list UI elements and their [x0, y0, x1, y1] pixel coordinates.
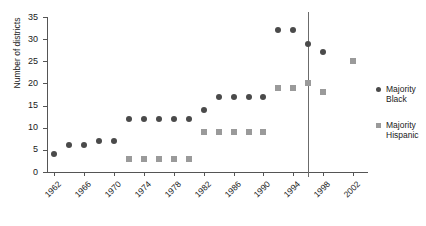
- data-point: [126, 116, 132, 122]
- x-tick-label: 1998: [308, 179, 332, 203]
- data-point: [320, 89, 326, 95]
- data-point: [246, 94, 252, 100]
- x-tick-mark: [54, 172, 55, 176]
- y-tick-label: 25: [16, 57, 38, 66]
- legend-item[interactable]: Majority Hispanic: [376, 120, 419, 140]
- y-tick-label: 0: [16, 168, 38, 177]
- y-tick-mark: [43, 150, 47, 151]
- data-point: [186, 156, 192, 162]
- y-tick-mark: [43, 83, 47, 84]
- x-tick-mark: [323, 172, 324, 176]
- data-point: [66, 142, 72, 148]
- data-point: [126, 156, 132, 162]
- data-point: [171, 116, 177, 122]
- data-point: [111, 138, 117, 144]
- x-tick-label: 1978: [159, 179, 183, 203]
- data-point: [231, 94, 237, 100]
- x-tick-label: 1966: [69, 179, 93, 203]
- x-tick-label: 2002: [338, 179, 362, 203]
- y-tick-label: 35: [16, 13, 38, 22]
- x-tick-mark: [174, 172, 175, 176]
- data-point: [275, 85, 281, 91]
- data-point: [171, 156, 177, 162]
- legend-label: Majority Black: [386, 84, 416, 104]
- data-point: [186, 116, 192, 122]
- x-tick-label: 1970: [99, 179, 123, 203]
- y-tick-mark: [43, 106, 47, 107]
- x-tick-mark: [234, 172, 235, 176]
- x-axis-line: [47, 172, 368, 173]
- data-point: [216, 94, 222, 100]
- y-axis-line: [47, 17, 48, 172]
- data-point: [141, 156, 147, 162]
- y-tick-label: 30: [16, 35, 38, 44]
- data-point: [305, 80, 311, 86]
- legend-circle-icon: [376, 87, 381, 92]
- data-point: [231, 129, 237, 135]
- x-tick-label: 1990: [249, 179, 273, 203]
- data-point: [156, 156, 162, 162]
- y-tick-mark: [43, 39, 47, 40]
- y-tick-label: 5: [16, 145, 38, 154]
- x-tick-mark: [204, 172, 205, 176]
- data-point: [201, 107, 207, 113]
- data-point: [201, 129, 207, 135]
- data-point: [156, 116, 162, 122]
- y-tick-label: 15: [16, 101, 38, 110]
- data-point: [51, 151, 57, 157]
- x-tick-mark: [263, 172, 264, 176]
- x-tick-mark: [353, 172, 354, 176]
- data-point: [305, 41, 311, 47]
- data-point: [216, 129, 222, 135]
- x-tick-label: 1974: [129, 179, 153, 203]
- data-point: [260, 94, 266, 100]
- x-tick-label: 1994: [278, 179, 302, 203]
- vertical-reference-line: [308, 12, 309, 177]
- data-point: [141, 116, 147, 122]
- y-tick-mark: [43, 172, 47, 173]
- y-tick-label: 10: [16, 123, 38, 132]
- x-tick-label: 1986: [219, 179, 243, 203]
- legend-item[interactable]: Majority Black: [376, 84, 416, 104]
- data-point: [290, 27, 296, 33]
- y-tick-mark: [43, 61, 47, 62]
- data-point: [350, 58, 356, 64]
- data-point: [275, 27, 281, 33]
- x-tick-mark: [114, 172, 115, 176]
- data-point: [260, 129, 266, 135]
- y-tick-mark: [43, 128, 47, 129]
- scatter-chart: Number of districts 05101520253035 19621…: [0, 0, 426, 226]
- y-tick-mark: [43, 17, 47, 18]
- data-point: [96, 138, 102, 144]
- data-point: [290, 85, 296, 91]
- x-tick-label: 1982: [189, 179, 213, 203]
- legend-label: Majority Hispanic: [386, 120, 419, 140]
- data-point: [320, 49, 326, 55]
- x-tick-mark: [84, 172, 85, 176]
- x-tick-mark: [293, 172, 294, 176]
- x-tick-mark: [144, 172, 145, 176]
- x-tick-label: 1962: [39, 179, 63, 203]
- data-point: [246, 129, 252, 135]
- y-tick-label: 20: [16, 79, 38, 88]
- legend-square-icon: [376, 123, 381, 128]
- data-point: [81, 142, 87, 148]
